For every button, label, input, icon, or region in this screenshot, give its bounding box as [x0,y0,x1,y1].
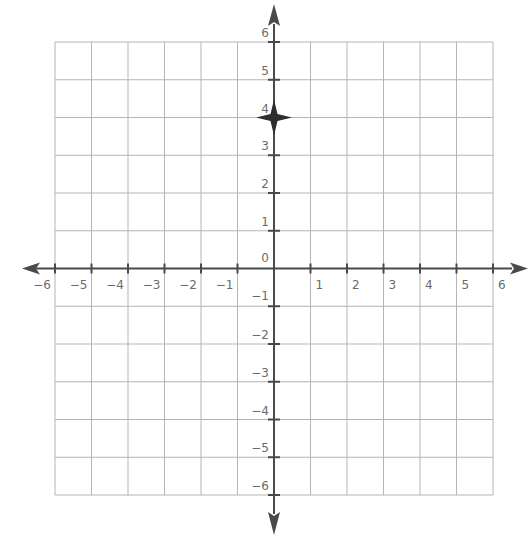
y-tick-label: 6 [261,26,269,40]
x-tick-label: −2 [179,278,197,292]
axes [22,4,528,535]
y-tick-label: −2 [251,328,269,342]
x-tick-label: −4 [106,278,124,292]
y-tick-label: 0 [261,251,269,265]
y-tick-label: −4 [251,404,269,418]
x-tick-label: 4 [425,278,433,292]
x-tick-label: 1 [316,278,324,292]
y-tick-label: 3 [261,139,269,153]
y-tick-label: 2 [261,177,269,191]
x-tick-label: 6 [498,278,506,292]
x-tick-label: −1 [216,278,234,292]
y-tick-label: 5 [261,64,269,78]
x-axis-labels: −6−5−4−3−2−1123456 [33,278,505,292]
coordinate-plane: −6−5−4−3−2−1123456 −6−5−4−3−2−10123456 [0,0,530,537]
x-tick-label: −5 [70,278,88,292]
x-tick-label: −6 [33,278,51,292]
x-tick-label: 3 [389,278,397,292]
x-tick-label: −3 [143,278,161,292]
arrow-up-icon [268,4,280,26]
y-tick-label: −5 [251,441,269,455]
arrow-right-icon [510,263,528,275]
arrow-down-icon [268,512,280,535]
y-axis-labels: −6−5−4−3−2−10123456 [251,26,269,493]
y-tick-label: 4 [261,102,269,116]
x-tick-label: 5 [462,278,470,292]
y-tick-label: −1 [251,289,269,303]
y-tick-label: −3 [251,366,269,380]
x-tick-label: 2 [352,278,360,292]
y-tick-label: 1 [261,215,269,229]
y-tick-label: −6 [251,479,269,493]
